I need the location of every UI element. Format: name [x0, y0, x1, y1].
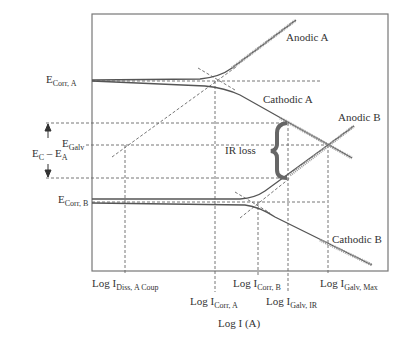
label-igalv-max: Log IGalv, Max [320, 278, 378, 292]
label-cathodic-a: Cathodic A [263, 94, 313, 105]
label-ecorr-b: ECorr, B [58, 194, 88, 208]
label-anodic-a: Anodic A [286, 32, 328, 43]
label-igalv-ir: Log IGalv, IR [266, 296, 317, 310]
label-cathodic-b: Cathodic B [332, 234, 382, 245]
cathodic-a-curve [92, 81, 352, 158]
anodic-a-extrapolation [112, 67, 236, 157]
label-ec-minus-ea: EC – EA [32, 148, 68, 162]
label-ir-loss: IR loss [225, 145, 256, 156]
label-idiss: Log IDiss, A Coup [92, 278, 159, 292]
label-icorr-a: Log ICorr, A [190, 296, 238, 310]
x-axis-title: Log I (A) [218, 318, 260, 329]
label-ecorr-a: ECorr, A [46, 74, 76, 88]
arrow-up-icon [45, 124, 51, 131]
cathodic-b-curve [92, 203, 372, 265]
arrow-down-icon [45, 170, 51, 177]
label-icorr-b: Log ICorr, B [233, 278, 281, 292]
cathodic-b-extrapolation [235, 192, 270, 213]
anodic-a-curve [92, 20, 296, 80]
ir-loss-brace [271, 123, 287, 178]
label-anodic-b: Anodic B [338, 112, 380, 123]
